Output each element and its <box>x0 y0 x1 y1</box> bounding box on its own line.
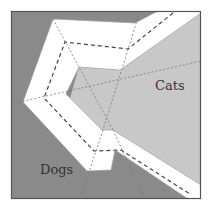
dogs-label: Dogs <box>40 162 73 177</box>
classification-diagram: Cats Dogs <box>0 0 211 212</box>
cats-label: Cats <box>155 78 185 93</box>
